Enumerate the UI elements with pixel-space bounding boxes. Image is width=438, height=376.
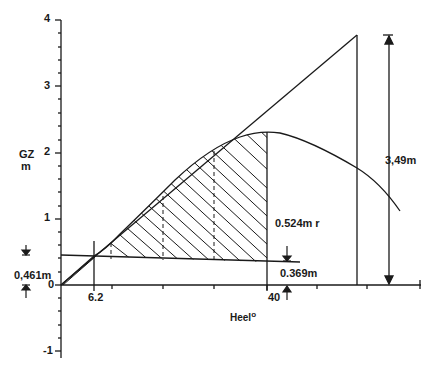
y-tick-neg1: -1	[43, 345, 53, 356]
y-tick-4: 4	[44, 13, 50, 24]
y-tick-3: 3	[44, 80, 50, 91]
gm-tangent-line-inner	[63, 256, 96, 285]
x-axis-title-text: Heel	[230, 312, 251, 323]
gz-curve	[61, 132, 400, 285]
x-tick-40: 40	[268, 292, 280, 303]
dynamic-stability-hatched-area	[68, 126, 400, 270]
x-tick-6-2: 6.2	[88, 292, 103, 303]
y-axis-title: GZ	[19, 149, 34, 160]
y-tick-2: 2	[44, 146, 50, 157]
tangent-height-label: 3,49m	[385, 155, 416, 166]
x-axis	[61, 280, 421, 291]
heeling-lever-40-label: 0.369m	[280, 268, 317, 279]
x-axis-title: Heelo	[230, 311, 256, 323]
gm-tangent-line	[61, 35, 357, 285]
heeling-lever-left-label: 0,461m	[14, 270, 51, 281]
y-axis	[55, 20, 61, 358]
ordinate-dashed-lines	[111, 151, 214, 261]
gz-curve-diagram	[0, 0, 438, 376]
y-tick-1: 1	[44, 212, 50, 223]
degree-superscript: o	[251, 310, 256, 319]
dynamic-stability-label: 0.524m r	[275, 218, 320, 229]
heeling-lever-line	[61, 255, 300, 262]
y-axis-unit: m	[21, 161, 31, 172]
